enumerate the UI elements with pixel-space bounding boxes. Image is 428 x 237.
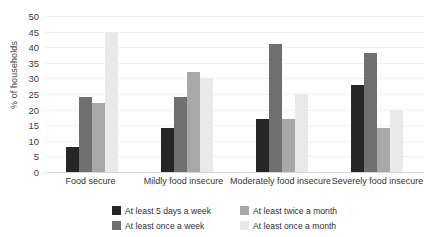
bar[interactable] <box>256 119 269 172</box>
x-axis-category-label: Mildly food insecure <box>137 176 230 186</box>
legend-label: At least once a week <box>125 221 204 231</box>
bar[interactable] <box>390 110 403 172</box>
gridline: 0 <box>44 172 424 173</box>
y-tick-label: 50 <box>28 11 39 22</box>
bar[interactable] <box>200 78 213 172</box>
y-axis-title: % of households <box>9 0 23 160</box>
bar[interactable] <box>351 85 364 172</box>
y-tick-label: 10 <box>28 135 39 146</box>
bar[interactable] <box>377 128 390 172</box>
y-tick-label: 45 <box>28 26 39 37</box>
bar[interactable] <box>364 53 377 172</box>
legend-item[interactable]: At least once a month <box>240 221 380 231</box>
y-tick-label: 40 <box>28 42 39 53</box>
legend-swatch-icon <box>240 206 249 215</box>
bars <box>351 16 403 172</box>
legend-swatch-icon <box>112 206 121 215</box>
bar[interactable] <box>92 103 105 172</box>
x-axis-category-label: Severely food insecure <box>331 176 424 186</box>
y-tick-label: 20 <box>28 104 39 115</box>
legend-swatch-icon <box>240 221 249 230</box>
bars <box>256 16 308 172</box>
bar[interactable] <box>161 128 174 172</box>
bar[interactable] <box>187 72 200 172</box>
bars <box>66 16 118 172</box>
bar[interactable] <box>66 147 79 172</box>
y-tick-label: 0 <box>34 167 39 178</box>
y-tick-label: 5 <box>34 151 39 162</box>
legend-label: At least once a month <box>253 221 336 231</box>
bar-group <box>44 16 139 172</box>
plot-area: 50454035302520151050 <box>44 16 424 172</box>
chart-legend: At least 5 days a weekAt least twice a m… <box>112 203 382 233</box>
bar-groups <box>44 16 424 172</box>
legend-swatch-icon <box>112 221 121 230</box>
bar[interactable] <box>174 97 187 172</box>
bars <box>161 16 213 172</box>
bar[interactable] <box>105 32 118 172</box>
y-tick-label: 35 <box>28 57 39 68</box>
bar-group <box>234 16 329 172</box>
bar-chart-figure: % of households 50454035302520151050 Foo… <box>0 0 428 237</box>
bar[interactable] <box>79 97 92 172</box>
legend-label: At least 5 days a week <box>125 206 211 216</box>
bar[interactable] <box>269 44 282 172</box>
x-axis-category-label: Food secure <box>44 176 137 186</box>
y-tick-label: 15 <box>28 120 39 131</box>
legend-label: At least twice a month <box>253 206 337 216</box>
bar[interactable] <box>295 94 308 172</box>
x-axis-labels: Food secureMildly food insecureModeratel… <box>44 176 424 186</box>
y-tick-label: 25 <box>28 89 39 100</box>
legend-item[interactable]: At least once a week <box>112 221 240 231</box>
legend-item[interactable]: At least twice a month <box>240 206 380 216</box>
bar-group <box>329 16 424 172</box>
bar[interactable] <box>282 119 295 172</box>
y-tick-label: 30 <box>28 73 39 84</box>
legend-item[interactable]: At least 5 days a week <box>112 206 240 216</box>
bar-group <box>139 16 234 172</box>
x-axis-category-label: Moderately food insecure <box>230 176 331 186</box>
